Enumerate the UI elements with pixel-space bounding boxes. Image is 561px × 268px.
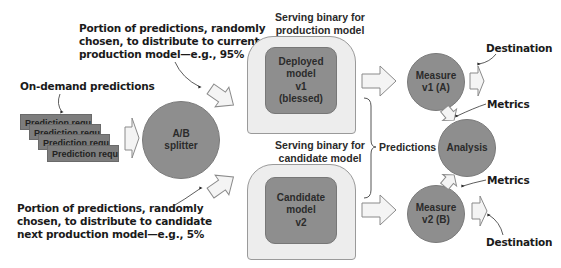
top-note-pointer: [175, 62, 200, 87]
production-to-measure-a-arrow: [362, 66, 396, 96]
metrics-bottom-pointer: [463, 180, 486, 186]
metrics-a-arrow: [438, 103, 461, 126]
on-demand-pointer: [58, 94, 62, 112]
requests-to-splitter-arrow: [125, 118, 139, 158]
candidate-to-measure-b-arrow: [362, 195, 396, 225]
splitter-to-production-arrow: [204, 79, 241, 115]
metrics-top-pointer: [457, 104, 486, 116]
destination-top-pointer: [479, 54, 496, 64]
predictions-brace: [364, 98, 376, 198]
bottom-note-pointer: [170, 188, 201, 208]
connectors-layer: [0, 0, 561, 268]
metrics-b-arrow: [438, 169, 461, 192]
measure-b-to-destination-arrow: [472, 196, 487, 226]
splitter-to-candidate-arrow: [204, 167, 241, 203]
measure-a-to-destination-arrow: [470, 66, 484, 96]
destination-bottom-pointer: [489, 215, 503, 235]
